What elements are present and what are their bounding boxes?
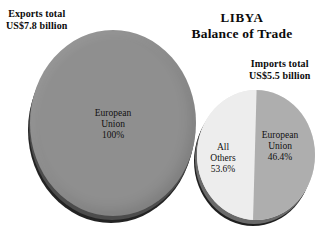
imports-european-union-label: European Union 46.4% xyxy=(249,130,311,163)
all-others-line1: All xyxy=(217,142,229,152)
all-others-line2: Others xyxy=(210,153,235,163)
imports-pie-chart: All Others 53.6% European Union 46.4% xyxy=(194,90,318,230)
imports-all-others-label: All Others 53.6% xyxy=(200,142,246,175)
all-others-value: 53.6% xyxy=(211,164,236,174)
exports-slice-label-value: 100% xyxy=(102,130,124,140)
eu-imports-line1: European xyxy=(262,130,298,140)
exports-total-annotation: Exports total US$7.8 billion xyxy=(6,8,67,31)
eu-imports-value: 46.4% xyxy=(268,152,293,162)
exports-slice-label-line2: Union xyxy=(101,119,125,129)
eu-imports-line2: Union xyxy=(268,141,292,151)
exports-total-line1: Exports total xyxy=(8,8,65,19)
imports-total-line1: Imports total xyxy=(251,58,309,69)
exports-slice-label: European Union 100% xyxy=(30,108,196,141)
balance-of-trade-figure: Exports total US$7.8 billion LIBYA Balan… xyxy=(0,0,336,247)
imports-total-annotation: Imports total US$5.5 billion xyxy=(249,58,310,81)
exports-pie-chart: European Union 100% xyxy=(28,30,198,230)
exports-slice-label-line1: European xyxy=(95,108,131,118)
title-country: LIBYA xyxy=(168,10,316,26)
exports-total-line2: US$7.8 billion xyxy=(6,20,67,31)
imports-total-line2: US$5.5 billion xyxy=(249,70,310,81)
